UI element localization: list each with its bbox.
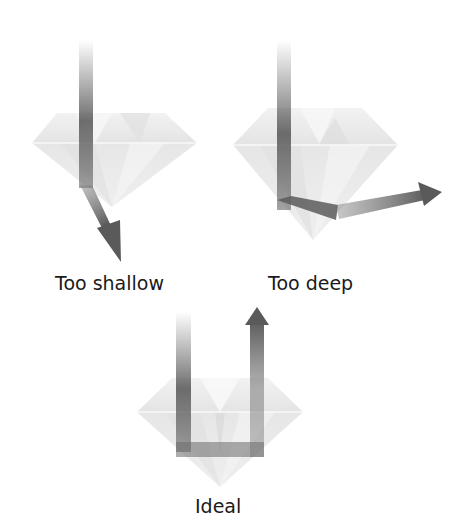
diamond-ideal xyxy=(137,307,303,487)
diagram-canvas xyxy=(0,0,465,520)
label-too-shallow: Too shallow xyxy=(55,274,164,293)
diamond-too-shallow xyxy=(32,40,197,262)
arrow-head-icon xyxy=(245,307,269,325)
label-too-deep: Too deep xyxy=(268,274,353,293)
arrow-head-icon xyxy=(418,182,442,206)
diamond-too-deep xyxy=(233,40,442,240)
diamond-shape xyxy=(137,378,303,487)
diamond-shape xyxy=(233,108,398,240)
arrow-head-icon xyxy=(97,220,121,262)
label-ideal: Ideal xyxy=(195,497,241,516)
diamond-shape xyxy=(32,113,197,207)
